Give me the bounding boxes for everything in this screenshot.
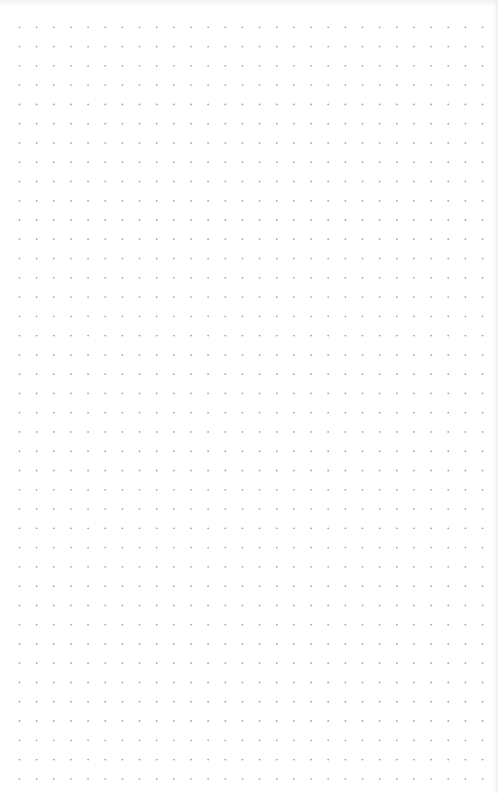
dot-grid-canvas[interactable] xyxy=(0,0,498,793)
top-edge-shade xyxy=(0,0,498,6)
right-edge-shade xyxy=(493,0,498,793)
dot-grid-pattern xyxy=(0,0,498,793)
